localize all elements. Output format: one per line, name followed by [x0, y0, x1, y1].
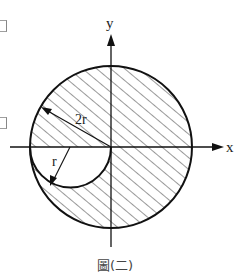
figure-caption: 圖(二)	[97, 258, 133, 273]
x-axis-arrow-icon	[212, 143, 224, 151]
large-radius-label: 2r	[75, 112, 87, 127]
small-radius-label: r	[52, 154, 57, 169]
y-axis-arrow-icon	[107, 34, 115, 46]
y-axis-label: y	[106, 15, 114, 31]
x-axis-label: x	[226, 139, 234, 155]
geometry-figure: y x 2r r 圖(二)	[0, 0, 243, 279]
